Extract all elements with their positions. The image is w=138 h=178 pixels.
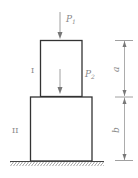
dimension-b-label: b	[111, 127, 121, 133]
dimension-a-label: a	[111, 67, 121, 72]
load-p1-label: P1	[65, 14, 76, 25]
column-diagram: P1 I P2 II a b	[0, 0, 138, 178]
segment-i-label: I	[31, 66, 34, 75]
segment-ii	[31, 97, 93, 161]
load-p1-arrow-icon	[58, 12, 63, 39]
segment-ii-label: II	[12, 126, 18, 135]
ground-hatch	[10, 162, 104, 166]
load-p2-label: P2	[84, 69, 95, 80]
